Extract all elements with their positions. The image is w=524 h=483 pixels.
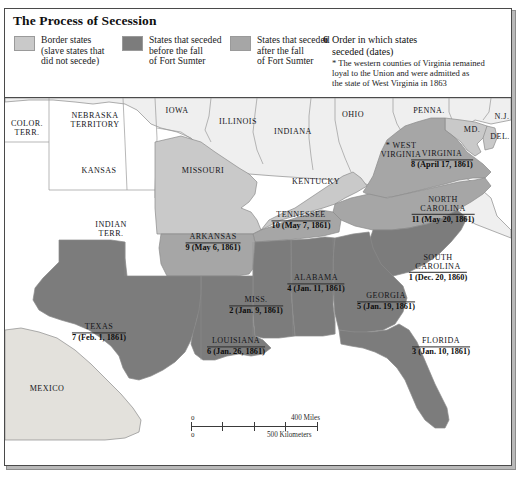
legend-item-seceded-before: States that seceded before the fall of F… xyxy=(122,35,221,67)
region-arkansas xyxy=(159,234,257,276)
map-canvas: COLOR. TERR.NEBRASKA TERRITORYKANSASINDI… xyxy=(5,98,511,465)
legend-item-seceded-after: States that seceded after the fall of Fo… xyxy=(230,35,329,67)
legend-label-seceded-before: States that seceded before the fall of F… xyxy=(149,35,221,67)
scale-km-zero: 0 xyxy=(191,431,195,439)
legend-note-number: 6 xyxy=(323,34,328,57)
scale-miles-zero: 0 xyxy=(191,414,195,422)
scale-km-label: 500 Kilometers xyxy=(267,431,312,439)
legend-title: The Process of Secession xyxy=(13,13,157,29)
legend-note-text: Order in which states seceded (dates) xyxy=(332,34,417,57)
swatch-border-states xyxy=(14,36,35,51)
legend-order-note: 6 Order in which states seceded (dates) … xyxy=(323,34,508,89)
map-legend: The Process of Secession Border states (… xyxy=(5,9,511,98)
region-alabama xyxy=(291,237,335,336)
map-geography xyxy=(5,98,511,465)
legend-item-border-states: Border states (slave states that did not… xyxy=(14,35,104,67)
swatch-seceded-after xyxy=(230,36,251,51)
scale-miles-label: 400 Miles xyxy=(291,414,320,422)
swatch-seceded-before xyxy=(122,36,143,51)
region-mississippi xyxy=(253,240,295,338)
legend-note-footnote: * The western counties of Virginia remai… xyxy=(332,58,508,89)
scale-bar: 0 400 Miles 0 500 Kilometers xyxy=(191,414,337,446)
map-figure: The Process of Secession Border states (… xyxy=(4,8,512,466)
legend-label-border-states: Border states (slave states that did not… xyxy=(41,35,104,67)
legend-label-seceded-after: States that seceded after the fall of Fo… xyxy=(257,35,329,67)
